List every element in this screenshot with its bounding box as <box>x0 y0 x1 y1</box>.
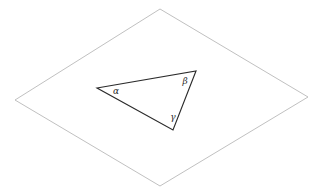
angle-label-alpha: α <box>113 86 119 96</box>
triangle-outline <box>97 71 196 130</box>
geometry-diagram: α β γ <box>0 0 327 194</box>
angle-label-beta: β <box>181 76 187 86</box>
angle-label-gamma: γ <box>170 112 176 122</box>
figure-canvas: α β γ <box>0 0 327 194</box>
plane-quadrilateral <box>15 9 308 186</box>
